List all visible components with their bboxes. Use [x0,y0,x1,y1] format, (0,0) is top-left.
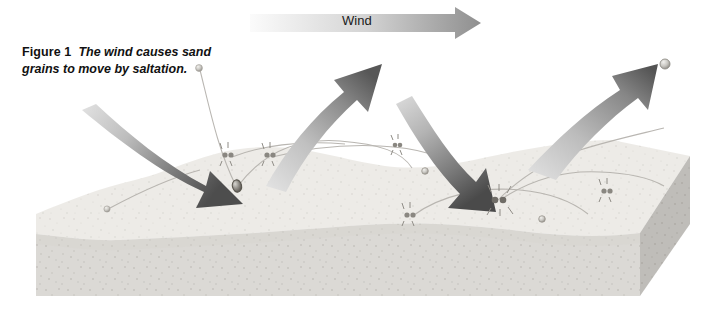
figure-caption: Figure 1 The wind causes sand grains to … [22,44,237,77]
wind-label: Wind [342,13,372,28]
grain-airborne-upper-right [660,59,670,69]
splash-upper-right [391,134,402,155]
grain-surface-left [104,206,110,212]
sand-top-surface [36,140,690,240]
figure-root: Wind Figure 1 The wind causes sand grain… [0,0,702,335]
grain-surface-mid [422,168,429,175]
sand-block [36,140,690,296]
wind-label-text: Wind [342,13,372,28]
figure-caption-label: Figure 1 [22,45,71,59]
grain-surface-right [539,216,546,223]
